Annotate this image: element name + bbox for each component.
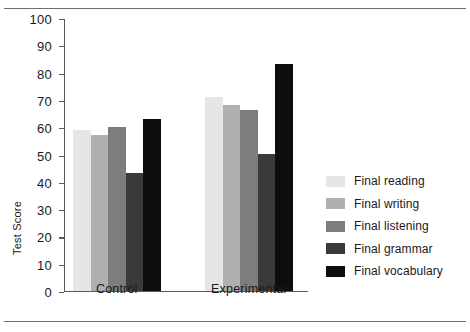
legend-swatch xyxy=(326,176,345,187)
y-tick: 20 xyxy=(59,237,64,238)
top-rule xyxy=(4,8,466,9)
y-tick-label: 100 xyxy=(29,13,52,26)
legend-label: Final vocabulary xyxy=(354,264,443,278)
x-axis-category-label: Control xyxy=(96,282,138,296)
bar xyxy=(258,154,276,291)
y-tick: 40 xyxy=(59,183,64,184)
bar-chart-figure: Test Score 1009080706050403020100 Contro… xyxy=(0,0,470,332)
y-tick-label: 0 xyxy=(44,286,52,299)
y-tick: 10 xyxy=(59,265,64,266)
bar xyxy=(91,135,109,291)
legend-swatch xyxy=(326,221,345,232)
bar xyxy=(223,105,241,291)
bar xyxy=(126,173,144,290)
y-tick: 60 xyxy=(59,128,64,129)
legend-item: Final listening xyxy=(326,215,443,238)
legend-item: Final reading xyxy=(326,170,443,193)
y-tick: 30 xyxy=(59,210,64,211)
y-tick-label: 60 xyxy=(37,122,52,135)
legend-swatch xyxy=(326,198,345,209)
y-axis-line xyxy=(64,19,65,292)
bottom-rule xyxy=(4,321,466,322)
y-tick-label: 80 xyxy=(37,67,52,80)
y-tick: 80 xyxy=(59,74,64,75)
bar xyxy=(240,110,258,290)
legend-swatch xyxy=(326,243,345,254)
bar xyxy=(73,130,91,291)
legend-swatch xyxy=(326,266,345,277)
y-tick-label: 10 xyxy=(37,258,52,271)
y-tick: 0 xyxy=(59,292,64,293)
legend-label: Final reading xyxy=(354,174,425,188)
plot-area: 1009080706050403020100 xyxy=(64,19,308,292)
y-axis-title: Test Score xyxy=(11,183,23,273)
legend-item: Final writing xyxy=(326,193,443,216)
legend-label: Final writing xyxy=(354,197,419,211)
chart-legend: Final readingFinal writingFinal listenin… xyxy=(326,170,443,283)
y-tick-label: 40 xyxy=(37,176,52,189)
y-tick-label: 90 xyxy=(37,40,52,53)
y-tick-label: 30 xyxy=(37,204,52,217)
bar xyxy=(205,97,223,291)
y-tick: 100 xyxy=(59,19,64,20)
x-axis-category-label: Experimental xyxy=(211,282,286,296)
y-tick-label: 70 xyxy=(37,94,52,107)
bar xyxy=(275,64,293,291)
y-tick: 70 xyxy=(59,101,64,102)
y-tick-label: 20 xyxy=(37,231,52,244)
bar xyxy=(108,127,126,291)
y-tick: 90 xyxy=(59,46,64,47)
y-tick-label: 50 xyxy=(37,149,52,162)
legend-label: Final listening xyxy=(354,219,429,233)
legend-label: Final grammar xyxy=(354,242,433,256)
bar xyxy=(143,119,161,291)
y-tick: 50 xyxy=(59,156,64,157)
legend-item: Final grammar xyxy=(326,238,443,261)
legend-item: Final vocabulary xyxy=(326,260,443,283)
